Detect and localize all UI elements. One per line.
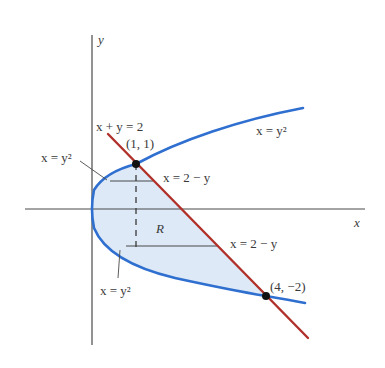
parabola-label-left: x = y²: [41, 150, 72, 165]
x-axis-label: x: [353, 215, 360, 230]
parabola-label-lower: x = y²: [100, 283, 131, 298]
point-label-4-neg2: (4, −2): [270, 279, 306, 294]
strip-label-lower: x = 2 − y: [230, 236, 278, 251]
parabola-label-upper: x = y²: [256, 123, 287, 138]
leader-left-label: [80, 161, 107, 180]
point-label-1-1: (1, 1): [126, 136, 154, 151]
point-4-neg2: [262, 292, 270, 300]
region-diagram: y x x + y = 2 (1, 1) (4, −2) x = y² x = …: [0, 0, 385, 368]
point-1-1: [132, 160, 140, 168]
strip-label-upper: x = 2 − y: [163, 170, 211, 185]
region-label: R: [155, 221, 164, 236]
y-axis-label: y: [96, 32, 104, 47]
line-label: x + y = 2: [96, 119, 143, 134]
